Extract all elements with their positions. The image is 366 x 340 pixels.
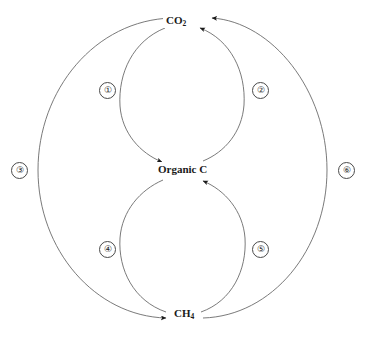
arc-step-6 bbox=[203, 18, 327, 318]
step-marker-1: ① bbox=[99, 82, 116, 99]
node-organic-c-text: Organic C bbox=[158, 163, 207, 175]
carbon-cycle-diagram: CO2 Organic C CH4 ① ② ③ ④ ⑤ ⑥ bbox=[0, 0, 366, 340]
arc-step-3 bbox=[38, 18, 172, 318]
step-marker-5: ⑤ bbox=[252, 241, 269, 258]
arc-step-4 bbox=[120, 180, 166, 312]
node-ch4-text: CH bbox=[174, 307, 191, 319]
node-label-co2: CO2 bbox=[163, 13, 189, 28]
arc-step-5 bbox=[201, 181, 245, 312]
arc-step-1 bbox=[120, 28, 165, 162]
step-marker-3: ③ bbox=[11, 162, 28, 179]
node-co2-subscript: 2 bbox=[183, 19, 187, 28]
node-co2-text: CO bbox=[166, 14, 183, 26]
step-marker-6: ⑥ bbox=[338, 162, 355, 179]
node-label-ch4: CH4 bbox=[171, 306, 197, 321]
node-label-organic-c: Organic C bbox=[155, 162, 210, 177]
step-marker-2: ② bbox=[252, 82, 269, 99]
step-marker-4: ④ bbox=[99, 241, 116, 258]
arc-step-2 bbox=[200, 28, 244, 161]
node-ch4-subscript: 4 bbox=[191, 312, 195, 321]
